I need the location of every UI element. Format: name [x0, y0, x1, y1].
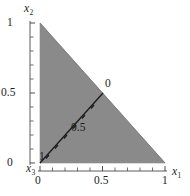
- y-axis-tick-label-0: 0: [7, 157, 13, 169]
- origin-axis-name-label: x3: [26, 163, 35, 175]
- simplex-figure: 1 0.5 0 0 0.5 1 x1 x2 x3 1 0 0.5: [0, 0, 190, 196]
- y-axis-major-ticks: [30, 23, 35, 163]
- x-axis-major-ticks: [40, 166, 165, 171]
- contour-label-0.5: 0.5: [71, 122, 85, 134]
- y-axis-tick-label-1: 1: [7, 17, 13, 29]
- x-axis-tick-label-0.5: 0.5: [94, 175, 108, 187]
- y-axis-tick-label-0.5: 0.5: [1, 87, 15, 99]
- y-axis-name-subscript: 2: [29, 8, 33, 17]
- origin-axis-name-subscript: 3: [31, 168, 35, 177]
- x-axis-tick-label-1: 1: [162, 175, 168, 187]
- x-axis-name-label: x1: [172, 166, 181, 178]
- x-axis-name-subscript: 1: [177, 171, 181, 180]
- x3-vertex-value-label: 1: [39, 151, 45, 163]
- contour-label-0: 0: [105, 78, 111, 90]
- y-axis-name-label: x2: [24, 3, 33, 15]
- x-axis-tick-label-0: 0: [35, 175, 41, 187]
